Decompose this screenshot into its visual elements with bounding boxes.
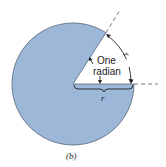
- angle-label-line1: One: [97, 55, 116, 66]
- radian-diagram: One radian r r (b): [0, 0, 166, 167]
- figure-caption: (b): [66, 151, 77, 161]
- arc-label: r: [122, 50, 132, 59]
- angled-dashed-line: [106, 10, 120, 33]
- angle-arrow-lower-head-icon: [98, 80, 102, 84]
- radius-label: r: [101, 93, 105, 103]
- arc-arrow-bottom-icon: [129, 79, 134, 84]
- angle-label-line2: radian: [93, 66, 121, 77]
- circle-sector: [12, 23, 134, 145]
